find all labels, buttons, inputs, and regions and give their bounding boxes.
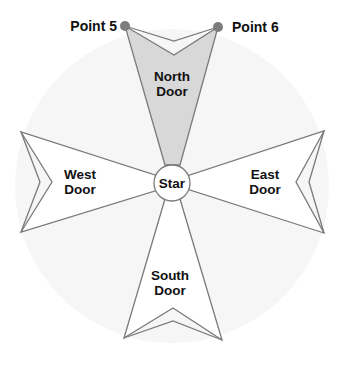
star-door-diagram: North Door West Door East Door South Doo… [0,0,345,365]
point-6-label: Point 6 [232,19,279,35]
north-door-label-line1: North [154,69,190,84]
star-center[interactable]: Star [154,165,190,201]
point-5-marker [120,21,130,31]
west-door-label-line1: West [64,167,97,182]
point-5[interactable]: Point 5 [70,18,130,34]
south-door-label-line2: Door [154,283,186,298]
star-label: Star [159,176,186,191]
point-6[interactable]: Point 6 [213,19,279,35]
west-door-label-line2: Door [64,182,96,197]
point-6-marker [213,22,223,32]
east-door-label-line1: East [251,167,280,182]
north-door-label-line2: Door [156,84,188,99]
point-5-label: Point 5 [70,18,117,34]
east-door-label-line2: Door [249,182,281,197]
south-door-label-line1: South [151,268,189,283]
